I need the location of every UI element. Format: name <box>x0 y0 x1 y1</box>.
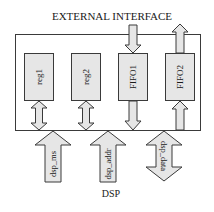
block-fifo2: FIFO2 <box>166 54 195 101</box>
dsp-title: DSP <box>102 188 121 199</box>
dsp-data-label: dsp_data <box>159 141 169 171</box>
block-fifo2-label: FIFO2 <box>175 65 185 89</box>
dsp-ms-label: dsp_ms <box>48 151 58 177</box>
block-fifo1-label: FIFO1 <box>128 65 138 89</box>
external-interface-title: EXTERNAL INTERFACE <box>52 10 172 22</box>
block-fifo1: FIFO1 <box>119 54 148 101</box>
signal-dsp-addr: dsp_addr <box>90 131 126 182</box>
block-reg1-label: reg1 <box>34 69 44 85</box>
block-diagram: EXTERNAL INTERFACE reg1 reg2 FIFO1 FIFO2… <box>0 0 214 212</box>
block-reg2: reg2 <box>72 54 101 101</box>
block-reg2-label: reg2 <box>81 69 91 85</box>
dsp-addr-label: dsp_addr <box>103 148 113 179</box>
signal-dsp-ms: dsp_ms <box>35 131 71 182</box>
block-reg1: reg1 <box>25 54 54 101</box>
signal-dsp-data: dsp_data <box>146 131 182 181</box>
